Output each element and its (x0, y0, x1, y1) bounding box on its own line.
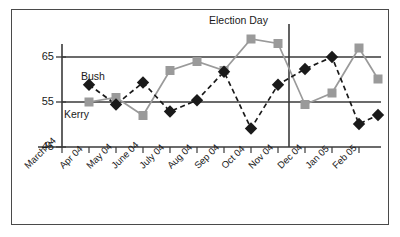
series-line-kerry (89, 39, 378, 116)
chart-plot-area (0, 0, 400, 237)
chart-container: 65 55 45 March 04 Apr 04 May 04 June 04 … (0, 0, 400, 237)
series-label-kerry: Kerry (64, 108, 89, 120)
series-label-bush: Bush (81, 70, 105, 82)
y-tick-label-65: 65 (30, 50, 54, 62)
y-tick-label-55: 55 (30, 95, 54, 107)
election-day-label: Election Day (209, 14, 268, 26)
